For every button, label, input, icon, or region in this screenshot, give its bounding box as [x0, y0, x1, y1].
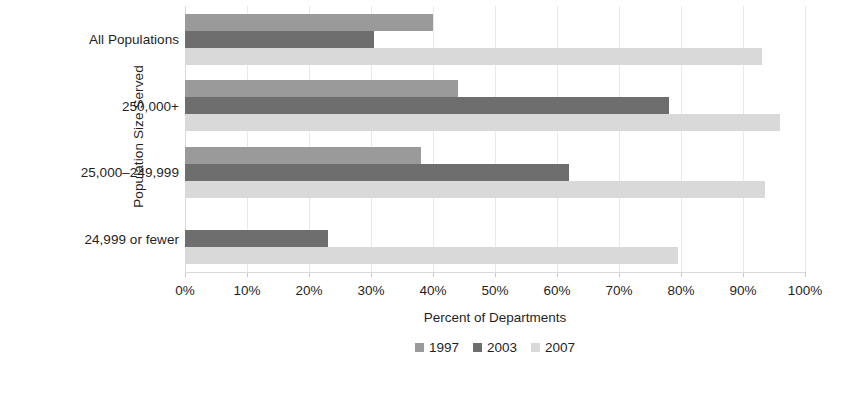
plot-area: [185, 6, 805, 272]
gridline: [433, 6, 434, 272]
gridline: [557, 6, 558, 272]
x-axis-label-1: 0%: [175, 283, 195, 298]
legend-item-2003[interactable]: 2003: [473, 340, 517, 355]
bar-2003-1: [185, 31, 374, 48]
gridline: [805, 6, 806, 272]
x-axis-title: Percent of Departments: [185, 310, 805, 325]
x-axis-tick-mark: [805, 272, 806, 277]
legend-swatch-icon: [531, 343, 540, 352]
gridline: [681, 6, 682, 272]
legend-label: 2003: [487, 340, 517, 355]
bar-2003-4: [185, 230, 328, 247]
x-axis-label-2: 10%: [233, 283, 260, 298]
y-axis-label-1: All Populations: [26, 32, 179, 47]
y-axis-label-2: 250,000+: [26, 98, 179, 113]
y-axis-label-4: 24,999 or fewer: [26, 231, 179, 246]
y-axis-tick-labels: All Populations250,000+25,000–249,99924,…: [26, 6, 179, 272]
x-axis-label-8: 70%: [605, 283, 632, 298]
bar-1997-1: [185, 14, 433, 31]
bar-2003-3: [185, 164, 569, 181]
x-axis-line: [185, 272, 805, 273]
bar-2007-4: [185, 247, 678, 264]
bar-2007-3: [185, 181, 765, 198]
gridline: [743, 6, 744, 272]
legend-item-1997[interactable]: 1997: [415, 340, 459, 355]
x-axis-label-4: 30%: [357, 283, 384, 298]
gridline: [619, 6, 620, 272]
x-axis-label-3: 20%: [295, 283, 322, 298]
x-axis-label-9: 80%: [667, 283, 694, 298]
x-axis-title-text: Percent of Departments: [424, 310, 567, 325]
x-axis-label-10: 90%: [729, 283, 756, 298]
bar-2003-2: [185, 97, 669, 114]
x-axis-tick-labels: 0%10%20%30%40%50%60%70%80%90%100%: [185, 283, 805, 301]
bar-1997-2: [185, 80, 458, 97]
bar-chart: Population Size Served All Populations25…: [0, 0, 847, 393]
x-axis-label-11: 100%: [788, 283, 823, 298]
gridline: [495, 6, 496, 272]
legend-label: 2007: [545, 340, 575, 355]
x-axis-label-7: 60%: [543, 283, 570, 298]
bar-1997-3: [185, 147, 421, 164]
legend-item-2007[interactable]: 2007: [531, 340, 575, 355]
x-axis-label-6: 50%: [481, 283, 508, 298]
legend-label: 1997: [429, 340, 459, 355]
x-axis-label-5: 40%: [419, 283, 446, 298]
legend-swatch-icon: [415, 343, 424, 352]
y-axis-label-3: 25,000–249,999: [26, 165, 179, 180]
bar-2007-1: [185, 48, 762, 65]
chart-legend: 199720032007: [185, 340, 805, 355]
legend-swatch-icon: [473, 343, 482, 352]
bar-2007-2: [185, 114, 780, 131]
